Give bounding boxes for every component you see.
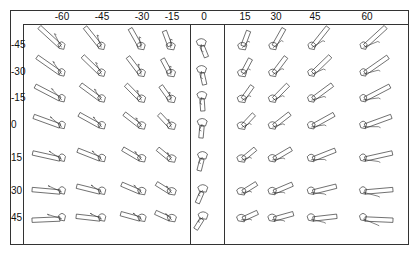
view-glyph <box>32 151 65 162</box>
view-glyph <box>77 148 106 162</box>
view-glyph <box>121 182 146 195</box>
view-glyph <box>155 182 176 195</box>
view-glyph <box>307 148 336 162</box>
view-glyph <box>238 30 251 50</box>
view-glyph <box>122 147 146 162</box>
view-glyph <box>237 210 259 221</box>
view-glyph <box>196 39 208 58</box>
view-glyph <box>197 119 207 139</box>
view-glyph <box>360 114 392 128</box>
view-glyph <box>162 30 175 50</box>
view-glyph <box>268 212 294 222</box>
view-glyph <box>159 85 176 103</box>
view-glyph <box>269 28 286 50</box>
view-glyph <box>237 58 252 77</box>
view-glyph <box>34 84 65 102</box>
view-glyph <box>194 212 208 231</box>
view-glyph <box>32 213 66 222</box>
view-glyph <box>308 26 330 50</box>
view-glyph <box>269 56 288 77</box>
view-glyph <box>157 113 176 130</box>
view-glyph <box>33 114 65 128</box>
view-glyph <box>360 84 391 102</box>
view-glyph <box>360 187 394 197</box>
view-glyph <box>307 214 337 224</box>
view-glyph <box>128 28 145 50</box>
view-glyph <box>32 186 66 195</box>
view-glyph <box>307 112 335 129</box>
view-glyph <box>197 152 208 172</box>
view-glyph <box>360 55 389 76</box>
view-glyph <box>308 83 334 102</box>
view-glyph <box>237 85 254 103</box>
view-glyph <box>360 151 393 163</box>
view-glyph <box>81 55 105 77</box>
view-glyph <box>268 112 291 129</box>
view-glyph <box>307 184 337 195</box>
view-glyph <box>195 185 207 204</box>
view-glyph <box>268 147 292 162</box>
view-glyph <box>237 182 258 195</box>
view-glyph <box>76 184 106 194</box>
view-glyph <box>76 213 106 221</box>
view-glyph <box>126 56 145 77</box>
view-glyph <box>237 147 257 162</box>
view-glyph <box>197 66 207 86</box>
view-glyph <box>360 213 394 225</box>
view-glyph <box>78 112 106 129</box>
view-glyph <box>155 210 177 221</box>
view-glyph <box>237 113 256 130</box>
view-glyph <box>79 83 105 102</box>
view-glyph <box>36 55 65 76</box>
view-glyph <box>83 26 105 50</box>
view-glyph <box>124 83 145 102</box>
view-glyph <box>120 212 146 222</box>
view-glyph <box>308 55 332 77</box>
view-glyph <box>156 147 176 162</box>
view-glyph <box>268 182 293 195</box>
view-glyph <box>123 112 146 129</box>
view-glyph <box>161 58 176 77</box>
view-glyph <box>197 92 207 112</box>
view-glyph <box>268 83 289 102</box>
view-glyph <box>38 25 65 49</box>
view-glyph <box>360 25 387 49</box>
glyph-grid <box>0 0 416 254</box>
